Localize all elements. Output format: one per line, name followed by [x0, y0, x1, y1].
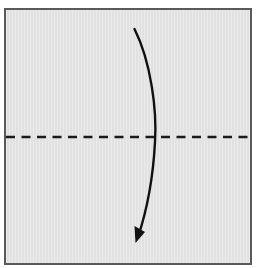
diagram-overlay [0, 0, 256, 268]
origami-diagram: Valley fold in half (fold top edge down … [0, 0, 256, 268]
